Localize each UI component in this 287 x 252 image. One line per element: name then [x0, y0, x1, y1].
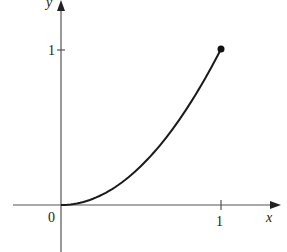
y-axis-label: y	[44, 0, 53, 10]
curve-line	[61, 49, 221, 205]
chart: 1 1 0 x y	[0, 0, 287, 252]
x-axis-arrow-icon	[270, 201, 281, 209]
endpoint-dot	[218, 46, 225, 53]
x-axis-label: x	[265, 210, 273, 225]
y-tick-label: 1	[48, 43, 55, 58]
y-axis-arrow-icon	[57, 0, 65, 11]
x-tick-label: 1	[216, 214, 223, 229]
origin-label: 0	[48, 210, 55, 225]
